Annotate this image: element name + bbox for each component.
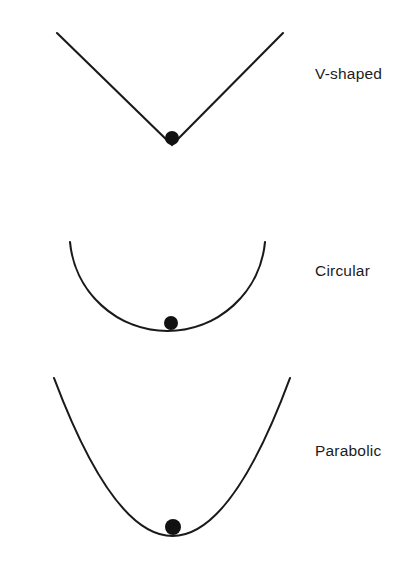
well-shapes-diagram [0, 0, 420, 577]
parabolic-well-curve [54, 378, 290, 536]
v-shaped-well-group [57, 33, 283, 145]
well-label-parabolic: Parabolic [315, 443, 381, 459]
circular-well-group [70, 242, 265, 331]
well-label-v-shaped: V-shaped [315, 66, 382, 82]
v-shaped-well-curve [57, 33, 283, 145]
parabolic-well-group [54, 378, 290, 536]
potential-well-figure: V-shaped Circular Parabolic [0, 0, 420, 577]
well-label-circular: Circular [315, 263, 370, 279]
ball-in-circular-well [164, 316, 178, 330]
ball-in-parabolic-well [165, 519, 181, 535]
ball-in-v-well [165, 131, 179, 145]
